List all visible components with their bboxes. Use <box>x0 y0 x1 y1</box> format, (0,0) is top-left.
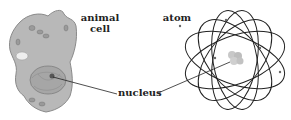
diagram-graphics <box>0 0 291 120</box>
animal-cell-label-line2: cell <box>80 23 120 34</box>
diagram-canvas: animal cell atom nucleus <box>0 0 291 120</box>
animal-cell-label-line1: animal <box>80 12 120 23</box>
atom-nucleus <box>228 51 244 65</box>
electrons <box>179 19 281 73</box>
atom-label: atom <box>162 12 192 23</box>
nucleus-label: nucleus <box>118 87 158 98</box>
animal-cell-label: animal cell <box>80 12 120 34</box>
animal-cell-illustration <box>9 10 76 112</box>
